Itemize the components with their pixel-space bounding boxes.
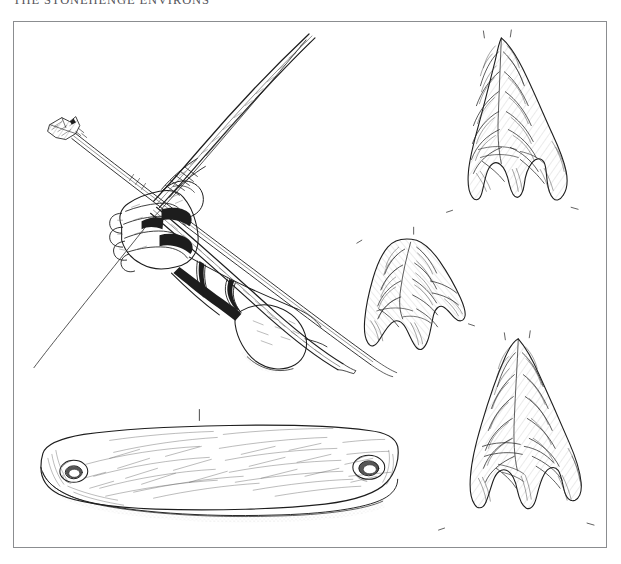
book-page: THE STONEHENGE ENVIRONS <box>0 0 621 564</box>
figure-plate-illustration <box>14 22 606 547</box>
figure-plate-frame <box>13 21 607 548</box>
page-running-head: THE STONEHENGE ENVIRONS <box>13 0 210 8</box>
archer-hand <box>110 181 204 272</box>
bracer-perforation-left <box>60 460 88 483</box>
hafted-arrowhead-icon <box>48 117 87 140</box>
arrowhead-middle <box>357 227 475 349</box>
bow-and-arrow-drawing <box>34 34 397 377</box>
stone-wrist-guard <box>41 410 398 523</box>
arrowhead-upper-right <box>447 30 579 212</box>
arrowhead-lower-right <box>439 331 594 530</box>
